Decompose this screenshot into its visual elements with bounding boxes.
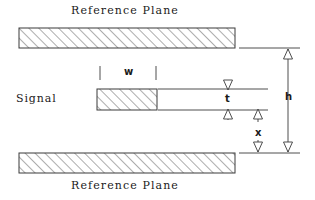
height-arrowhead-down [284,142,293,152]
top-reference-plane-label: Reference Plane [71,5,179,16]
height-dimension-label: h [285,92,292,102]
stripline-cross-section-diagram: Reference Plane Reference Plane Signal w… [0,0,315,200]
signal-trace-shape [97,89,157,110]
thickness-dimension-label: t [225,94,230,104]
spacing-dimension-label: x [255,128,261,138]
spacing-arrowhead-up [254,109,263,119]
thickness-arrowhead-up [224,109,233,119]
top-reference-plane-shape [19,28,235,48]
thickness-arrowhead-down [224,80,233,90]
bottom-reference-plane-label: Reference Plane [71,180,179,191]
signal-label: Signal [16,93,57,104]
spacing-arrowhead-down [254,142,263,152]
bottom-reference-plane-shape [19,153,235,173]
width-dimension-label: w [124,67,133,77]
height-arrowhead-up [284,49,293,59]
